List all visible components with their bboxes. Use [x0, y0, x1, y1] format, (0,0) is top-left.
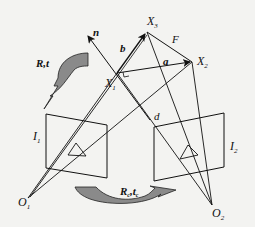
image-plane-i2: [154, 113, 224, 181]
label-i1: I1: [32, 129, 41, 145]
label-a: a: [163, 55, 169, 67]
label-f: F: [171, 33, 179, 45]
projected-triangle-i1: [68, 143, 86, 156]
label-b: b: [120, 42, 126, 54]
image-plane-i1: [46, 114, 107, 178]
label-rt: R,t: [35, 57, 50, 69]
diagram-canvas: X3 X2 X1 n b a F d I1 I2 O1 O2 R,t Rc,tc: [0, 0, 255, 227]
edge-f: [147, 32, 192, 62]
label-d: d: [154, 110, 160, 122]
normal-vector-n: [88, 36, 150, 120]
geometry-figure: X3 X2 X1 n b a F d I1 I2 O1 O2 R,t Rc,tc: [0, 0, 255, 227]
label-o2: O2: [212, 206, 225, 222]
projected-triangle-i2: [180, 145, 198, 159]
label-x2: X2: [196, 54, 208, 70]
label-rctc: Rc,tc: [119, 185, 139, 198]
label-i2: I2: [229, 139, 238, 155]
vector-a: [117, 62, 190, 73]
label-x1: X1: [104, 76, 116, 92]
right-angle-marker: [123, 72, 129, 77]
label-n: n: [93, 26, 99, 38]
label-x3: X3: [146, 14, 158, 30]
rotation-arrow-rt: [44, 53, 88, 109]
